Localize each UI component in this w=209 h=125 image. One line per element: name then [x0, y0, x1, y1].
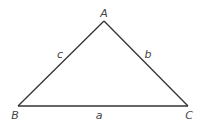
side-label-a: a [96, 109, 103, 122]
side-c [18, 21, 104, 106]
triangle-diagram: A B C a b c [0, 0, 209, 125]
side-b [104, 21, 188, 106]
vertex-label-c: C [185, 109, 193, 122]
vertex-label-b: B [11, 109, 19, 122]
side-label-c: c [57, 48, 63, 61]
side-label-b: b [145, 48, 152, 61]
vertex-label-a: A [99, 7, 108, 20]
